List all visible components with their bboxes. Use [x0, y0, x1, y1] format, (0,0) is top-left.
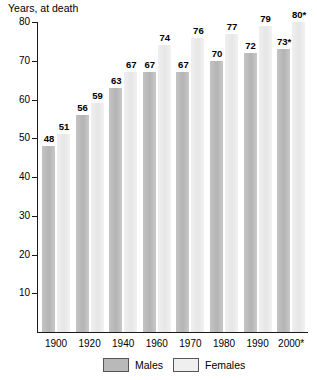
bar-female [91, 103, 104, 332]
bar-female [191, 38, 204, 333]
bar-female [124, 72, 137, 332]
bar-value-label: 72 [241, 40, 261, 51]
y-axis-label: 20 [4, 249, 30, 260]
x-axis-line [37, 332, 308, 333]
bar-group: 6776 [176, 22, 204, 332]
bar-male [277, 49, 290, 332]
bar-value-label: 59 [88, 90, 108, 101]
bar-group: 7279 [244, 22, 272, 332]
bar-value-label: 70 [207, 48, 227, 59]
bar-value-label: 80* [289, 9, 309, 20]
bar-male [143, 72, 156, 332]
bar-group: 5659 [76, 22, 104, 332]
bar-value-label: 76 [188, 25, 208, 36]
legend-label-females: Females [205, 359, 245, 371]
x-axis-label: 2000* [271, 338, 311, 349]
bar-group: 6367 [109, 22, 137, 332]
bar-value-label: 48 [39, 133, 59, 144]
bar-male [176, 72, 189, 332]
bar-female [57, 134, 70, 332]
chart-axis-title: Years, at death [8, 2, 78, 14]
bar-value-label: 67 [121, 59, 141, 70]
bar-value-label: 73* [274, 36, 294, 47]
bar-group: 4851 [42, 22, 70, 332]
bar-male [210, 61, 223, 332]
bar-female [292, 22, 305, 332]
y-axis-label: 80 [4, 16, 30, 27]
bar-value-label: 56 [73, 102, 93, 113]
y-axis-label: 40 [4, 171, 30, 182]
life-expectancy-bar-chart: Years, at death 1020304050607080 4851565… [0, 0, 317, 380]
bar-female [225, 34, 238, 332]
legend-label-males: Males [135, 359, 163, 371]
bar-male [42, 146, 55, 332]
bar-group: 73*80* [277, 22, 305, 332]
bar-value-label: 67 [140, 59, 160, 70]
legend-swatch-males [103, 358, 129, 372]
bar-value-label: 77 [222, 21, 242, 32]
bar-female [158, 45, 171, 332]
bar-value-label: 74 [155, 32, 175, 43]
legend-swatch-females [173, 358, 199, 372]
y-axis-label: 10 [4, 287, 30, 298]
chart-legend: Males Females [0, 358, 317, 378]
y-axis-label: 30 [4, 210, 30, 221]
bar-male [109, 88, 122, 332]
bar-value-label: 79 [256, 13, 276, 24]
bars-layer: 485156596367677467767077727973*80* [37, 22, 308, 332]
bar-value-label: 63 [106, 75, 126, 86]
y-axis-label: 70 [4, 55, 30, 66]
bar-female [259, 26, 272, 332]
bar-group: 6774 [143, 22, 171, 332]
bar-value-label: 67 [173, 59, 193, 70]
y-axis-label: 60 [4, 94, 30, 105]
y-axis-label: 50 [4, 132, 30, 143]
bar-value-label: 51 [54, 121, 74, 132]
bar-male [244, 53, 257, 332]
bar-group: 7077 [210, 22, 238, 332]
bar-male [76, 115, 89, 332]
